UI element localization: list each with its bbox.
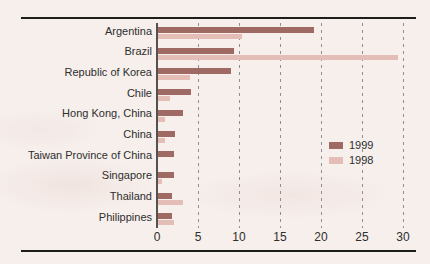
x-tick-label: 25 bbox=[355, 230, 368, 244]
bar-1999 bbox=[158, 89, 191, 95]
bar-1998 bbox=[158, 179, 162, 184]
category-label: Republic of Korea bbox=[0, 65, 152, 79]
legend-entry-1999: 1999 bbox=[329, 138, 373, 153]
x-tick-label: 5 bbox=[195, 230, 202, 244]
x-tick-label: 10 bbox=[232, 230, 245, 244]
gridline-30 bbox=[403, 23, 404, 228]
figure: ArgentinaBrazilRepublic of KoreaChileHon… bbox=[0, 0, 430, 264]
category-label: Argentina bbox=[0, 24, 152, 38]
bar-1999 bbox=[158, 27, 314, 33]
legend-swatch-1998 bbox=[329, 157, 343, 164]
legend-label-1998: 1998 bbox=[349, 153, 373, 168]
x-tick-label: 20 bbox=[314, 230, 327, 244]
category-label: Hong Kong, China bbox=[0, 106, 152, 120]
category-label: Thailand bbox=[0, 189, 152, 203]
category-label: Philippines bbox=[0, 210, 152, 224]
category-label: Brazil bbox=[0, 44, 152, 58]
bar-1999 bbox=[158, 110, 183, 116]
bar-1998 bbox=[158, 75, 190, 80]
bar-1998 bbox=[158, 55, 398, 60]
bar-1999 bbox=[158, 48, 234, 54]
bar-1999 bbox=[158, 131, 175, 137]
bar-1999 bbox=[158, 68, 231, 74]
bar-1999 bbox=[158, 213, 172, 219]
x-tick-label: 0 bbox=[154, 230, 161, 244]
legend-label-1999: 1999 bbox=[349, 138, 373, 153]
bar-1998 bbox=[158, 138, 165, 143]
legend-swatch-1999 bbox=[329, 142, 343, 149]
legend-entry-1998: 1998 bbox=[329, 153, 373, 168]
bar-1998 bbox=[158, 34, 242, 39]
category-label: Singapore bbox=[0, 168, 152, 182]
bar-1998 bbox=[158, 117, 165, 122]
bar-1998 bbox=[158, 200, 183, 205]
x-tick-label: 30 bbox=[396, 230, 409, 244]
legend: 1999 1998 bbox=[329, 138, 373, 168]
bar-1999 bbox=[158, 151, 174, 157]
category-label: Taiwan Province of China bbox=[0, 148, 152, 162]
chart-area: ArgentinaBrazilRepublic of KoreaChileHon… bbox=[0, 0, 430, 264]
bottom-rule bbox=[21, 250, 416, 252]
x-tick-label: 15 bbox=[273, 230, 286, 244]
category-label: Chile bbox=[0, 86, 152, 100]
bar-1999 bbox=[158, 172, 174, 178]
category-label: China bbox=[0, 127, 152, 141]
bar-1998 bbox=[158, 220, 174, 225]
bar-1999 bbox=[158, 193, 172, 199]
bar-1998 bbox=[158, 96, 170, 101]
